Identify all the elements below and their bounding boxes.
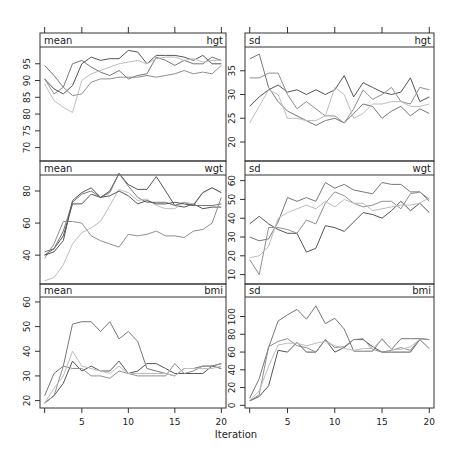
y-tick-label: 75 bbox=[22, 125, 32, 136]
x-tick-label: 10 bbox=[329, 417, 341, 427]
series-line-1 bbox=[45, 361, 222, 403]
y-tick-label: 60 bbox=[227, 175, 237, 187]
series-line-3 bbox=[45, 364, 222, 404]
y-tick-label: 35 bbox=[227, 65, 237, 76]
y-tick-label: 40 bbox=[227, 212, 237, 224]
series-line-1 bbox=[45, 173, 222, 255]
strip-var-label: bmi bbox=[204, 285, 223, 296]
y-tick-label: 20 bbox=[227, 382, 237, 394]
series-line-1 bbox=[45, 50, 222, 94]
panel-sd-wgt: sdwgt102030405060 bbox=[227, 161, 434, 284]
y-tick-label: 20 bbox=[227, 136, 237, 148]
y-tick-label: 30 bbox=[227, 231, 237, 243]
series-line-2 bbox=[45, 322, 222, 396]
series-line-3 bbox=[45, 65, 222, 95]
y-tick-label: 50 bbox=[22, 321, 32, 333]
y-tick-label: 50 bbox=[227, 193, 237, 205]
strip-var-label: hgt bbox=[206, 35, 223, 46]
series-line-4 bbox=[250, 340, 430, 400]
x-axis-label: Iteration bbox=[215, 429, 257, 440]
series-line-3 bbox=[250, 73, 430, 123]
series-line-3 bbox=[250, 192, 430, 275]
y-tick-label: 80 bbox=[227, 328, 237, 340]
series-line-2 bbox=[250, 183, 430, 241]
x-tick-label: 15 bbox=[376, 417, 387, 427]
strip-stat-label: sd bbox=[249, 285, 261, 296]
series-line-4 bbox=[45, 57, 222, 112]
series-line-4 bbox=[250, 87, 430, 123]
x-tick-label: 5 bbox=[285, 417, 291, 427]
strip-stat-label: mean bbox=[44, 285, 72, 296]
x-tick-label: 15 bbox=[169, 417, 180, 427]
strip-stat-label: mean bbox=[44, 163, 72, 174]
y-tick-label: 100 bbox=[227, 308, 237, 325]
y-tick-label: 60 bbox=[22, 217, 32, 229]
y-tick-label: 95 bbox=[22, 58, 32, 69]
panel-mean-wgt: meanwgt406080 bbox=[22, 161, 226, 284]
x-tick-label: 20 bbox=[424, 417, 436, 427]
y-tick-label: 90 bbox=[22, 75, 32, 87]
y-tick-label: 10 bbox=[227, 269, 237, 281]
series-line-4 bbox=[45, 188, 222, 281]
trace-plot-grid: meanhgt707580859095sdhgt20253035meanwgt4… bbox=[0, 0, 457, 467]
y-tick-label: 25 bbox=[227, 113, 237, 124]
y-tick-label: 20 bbox=[22, 395, 32, 407]
y-tick-label: 40 bbox=[227, 364, 237, 376]
panel-frame bbox=[40, 33, 226, 161]
y-tick-label: 40 bbox=[22, 345, 32, 357]
strip-var-label: wgt bbox=[413, 163, 432, 174]
y-tick-label: 80 bbox=[22, 185, 32, 197]
strip-var-label: bmi bbox=[412, 285, 431, 296]
strip-var-label: wgt bbox=[205, 163, 224, 174]
panel-mean-hgt: meanhgt707580859095 bbox=[22, 27, 226, 161]
series-line-4 bbox=[45, 351, 222, 403]
x-tick-label: 5 bbox=[79, 417, 85, 427]
strip-stat-label: sd bbox=[249, 163, 261, 174]
y-tick-label: 70 bbox=[22, 142, 32, 154]
panel-sd-hgt: sdhgt20253035 bbox=[227, 27, 434, 161]
panel-frame bbox=[245, 161, 434, 284]
panel-sd-bmi: sdbmi0204060801005101520 bbox=[227, 284, 435, 427]
strip-stat-label: sd bbox=[249, 35, 261, 46]
strip-stat-label: mean bbox=[44, 35, 72, 46]
y-tick-label: 20 bbox=[227, 250, 237, 262]
x-tick-label: 10 bbox=[123, 417, 135, 427]
series-line-2 bbox=[45, 173, 222, 252]
y-tick-label: 30 bbox=[227, 89, 237, 101]
y-tick-label: 30 bbox=[22, 370, 32, 382]
strip-var-label: hgt bbox=[414, 35, 431, 46]
panel-mean-bmi: meanbmi20304050605101520 bbox=[22, 284, 227, 427]
y-tick-label: 0 bbox=[227, 402, 237, 408]
panel-frame bbox=[245, 284, 434, 408]
y-tick-label: 80 bbox=[22, 108, 32, 120]
x-tick-label: 20 bbox=[216, 417, 228, 427]
y-tick-label: 85 bbox=[22, 92, 32, 103]
panel-frame bbox=[245, 33, 434, 161]
y-tick-label: 40 bbox=[22, 249, 32, 261]
series-line-1 bbox=[250, 201, 430, 252]
y-tick-label: 60 bbox=[227, 346, 237, 358]
y-tick-label: 60 bbox=[22, 296, 32, 308]
